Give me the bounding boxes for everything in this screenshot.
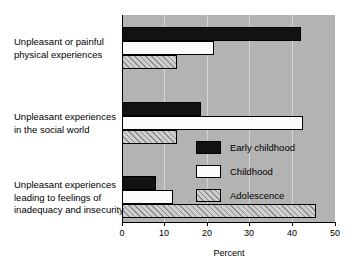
bar-group2-adolescence (122, 130, 177, 144)
legend: Early childhood Childhood Adolescence (196, 137, 328, 209)
x-tick-label-50: 50 (323, 228, 347, 239)
category-label-3-line-2: leading to feelings of (14, 192, 130, 205)
legend-item-adolescence: Adolescence (196, 185, 328, 205)
category-label-1-line-2: physical experiences (14, 49, 130, 62)
x-axis-title: Percent (122, 248, 336, 258)
legend-swatch-adolescence-icon (196, 189, 221, 202)
grouped-bar-chart: 0 10 20 30 40 50 Percent Unpleasant or p… (0, 0, 363, 275)
legend-label-adolescence: Adolescence (230, 190, 284, 201)
legend-label-childhood: Childhood (230, 166, 273, 177)
x-tick-40 (292, 222, 293, 226)
category-label-2-line-2: in the social world (14, 124, 130, 137)
legend-swatch-childhood-icon (196, 165, 221, 178)
category-label-1: Unpleasant or painful physical experienc… (14, 36, 130, 61)
legend-swatch-early-childhood-icon (196, 141, 221, 154)
bar-group1-childhood (122, 41, 214, 55)
x-tick-label-40: 40 (280, 228, 304, 239)
bar-group1-early-childhood (122, 27, 301, 41)
category-label-2-line-1: Unpleasant experiences (14, 111, 130, 124)
category-label-3: Unpleasant experiences leading to feelin… (14, 179, 130, 217)
legend-item-childhood: Childhood (196, 161, 328, 181)
x-tick-label-20: 20 (195, 228, 219, 239)
bar-group1-adolescence (122, 55, 177, 69)
bar-group2-childhood (122, 116, 303, 130)
category-label-1-line-1: Unpleasant or painful (14, 36, 130, 49)
x-tick-20 (207, 222, 208, 226)
x-tick-50 (335, 222, 336, 226)
x-tick-label-10: 10 (152, 228, 176, 239)
x-axis-line (122, 222, 336, 223)
x-tick-label-30: 30 (237, 228, 261, 239)
legend-item-early-childhood: Early childhood (196, 137, 328, 157)
category-label-3-line-3: inadequacy and insecurity (14, 204, 130, 217)
x-tick-label-0: 0 (110, 228, 134, 239)
x-tick-0 (122, 222, 123, 226)
legend-label-early-childhood: Early childhood (230, 142, 295, 153)
category-label-3-line-1: Unpleasant experiences (14, 179, 130, 192)
x-tick-30 (249, 222, 250, 226)
category-label-2: Unpleasant experiences in the social wor… (14, 111, 130, 136)
x-tick-10 (164, 222, 165, 226)
bar-group2-early-childhood (122, 102, 201, 116)
